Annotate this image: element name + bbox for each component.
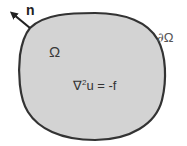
boundary-label: ∂Ω (157, 31, 173, 44)
equation-rest: u = -f (86, 78, 116, 93)
boundary-name: Ω (164, 30, 174, 45)
poisson-equation: ∇2u = -f (73, 79, 116, 92)
nabla-operator: ∇ (73, 78, 82, 93)
domain-region (19, 13, 165, 140)
diagram-canvas (0, 0, 187, 146)
partial-symbol: ∂ (157, 30, 164, 45)
normal-vector-label: n (26, 3, 35, 17)
domain-label: Ω (49, 44, 60, 59)
